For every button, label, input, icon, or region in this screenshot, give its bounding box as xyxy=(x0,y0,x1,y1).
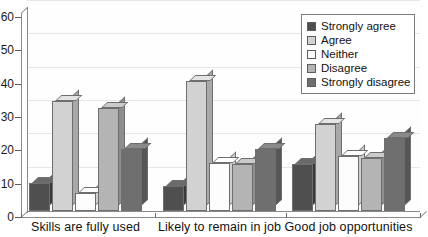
x-axis-category-label: Likely to remain in job xyxy=(158,220,281,234)
bar-front-face xyxy=(98,108,119,211)
bar-side-face xyxy=(73,89,79,205)
bar xyxy=(255,149,276,211)
bar-front-face xyxy=(121,149,142,211)
legend-item-label: Agree xyxy=(321,34,352,46)
bar xyxy=(232,164,253,211)
legend-item-label: Strongly agree xyxy=(321,20,396,32)
x-axis-tick xyxy=(155,213,156,218)
legend-item[interactable]: Strongly agree xyxy=(307,19,409,33)
legend-swatch-icon xyxy=(307,36,316,45)
chart-legend: Strongly agreeAgreeNeitherDisagreeStrong… xyxy=(301,14,415,94)
y-axis-tick-label: 0 xyxy=(0,210,14,224)
legend-swatch-icon xyxy=(307,50,316,59)
y-axis-back xyxy=(27,7,28,213)
y-axis-tick xyxy=(15,150,21,151)
y-axis-tick-label: 20 xyxy=(0,143,14,157)
y-axis-tick-label: 60 xyxy=(0,10,14,24)
legend-swatch-icon xyxy=(307,78,316,87)
legend-item[interactable]: Strongly disagree xyxy=(307,75,409,89)
legend-item-label: Disagree xyxy=(321,62,367,74)
bar xyxy=(361,158,382,211)
y-axis-tick xyxy=(15,117,21,118)
x-axis-tick xyxy=(21,213,22,218)
legend-item[interactable]: Disagree xyxy=(307,61,409,75)
bar xyxy=(29,183,50,211)
bar-chart: 0102030405060 Skills are fully usedLikel… xyxy=(0,0,428,237)
bar xyxy=(384,138,405,211)
bar-front-face xyxy=(52,101,73,211)
bar-front-face xyxy=(186,81,207,211)
legend-item-label: Strongly disagree xyxy=(321,76,411,88)
bar xyxy=(186,81,207,211)
y-axis-tick-label: 40 xyxy=(0,77,14,91)
gridline xyxy=(27,133,420,134)
bar xyxy=(52,101,73,211)
y-axis-tick xyxy=(15,84,21,85)
x-axis-tick xyxy=(420,213,421,218)
legend-item-label: Neither xyxy=(321,48,358,60)
y-axis-tick-label: 50 xyxy=(0,43,14,57)
bar-front-face xyxy=(255,149,276,211)
legend-swatch-icon xyxy=(307,64,316,73)
legend-swatch-icon xyxy=(307,22,316,31)
y-axis-tick xyxy=(15,17,21,18)
y-axis-tick xyxy=(15,184,21,185)
legend-item[interactable]: Agree xyxy=(307,33,409,47)
x-axis-category-label: Good job opportunities xyxy=(285,220,413,234)
bar-front-face xyxy=(361,158,382,211)
bar-front-face xyxy=(292,164,313,211)
x-axis-category-label: Skills are fully used xyxy=(31,220,140,234)
bar-front-face xyxy=(29,183,50,211)
bar-front-face xyxy=(384,138,405,211)
bar xyxy=(163,186,184,211)
y-axis-tick xyxy=(15,50,21,51)
bar-front-face xyxy=(75,193,96,211)
bar xyxy=(98,108,119,211)
legend-item[interactable]: Neither xyxy=(307,47,409,61)
x-axis-front xyxy=(21,217,420,218)
y-axis-tick-label: 10 xyxy=(0,177,14,191)
y-axis-tick-label: 30 xyxy=(0,110,14,124)
y-axis-front xyxy=(21,13,22,218)
bar xyxy=(121,149,142,211)
bar xyxy=(75,193,96,211)
gridline xyxy=(27,100,420,101)
bar xyxy=(338,156,359,211)
bar xyxy=(292,164,313,211)
bar-front-face xyxy=(315,124,336,211)
x-axis-back xyxy=(27,211,420,212)
bar-front-face xyxy=(163,186,184,211)
x-axis-tick xyxy=(286,213,287,218)
bar-front-face xyxy=(232,164,253,211)
bar-front-face xyxy=(209,163,230,211)
gridline xyxy=(27,0,420,1)
bar xyxy=(315,124,336,211)
bar-front-face xyxy=(338,156,359,211)
bar xyxy=(209,163,230,211)
